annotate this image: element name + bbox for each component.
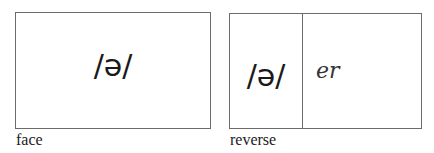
face-card: /ə/ [15,12,211,129]
handwritten-spelling: er [316,58,340,83]
face-ipa-symbol: /ə/ [16,51,210,81]
face-caption: face [16,131,43,149]
reverse-ipa-symbol: /ə/ [230,61,302,91]
reverse-caption: reverse [230,131,276,149]
card-divider [302,14,303,128]
reverse-card: /ə/ er [229,13,422,129]
